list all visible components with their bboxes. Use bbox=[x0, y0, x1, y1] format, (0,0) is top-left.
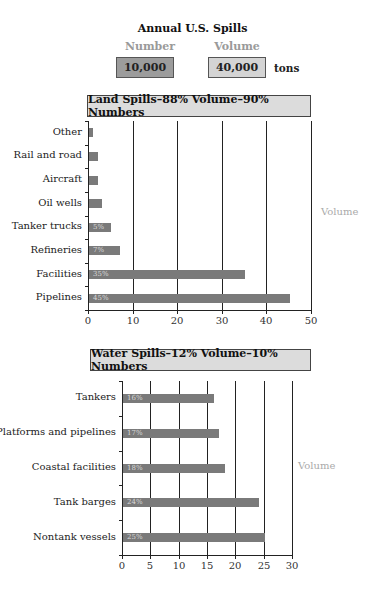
x-tick-label: 25 bbox=[254, 560, 274, 571]
x-tick-label: 30 bbox=[282, 560, 302, 571]
category-label: Nontank vessels bbox=[33, 531, 116, 542]
y-tick bbox=[119, 520, 122, 521]
y-tick bbox=[119, 381, 122, 382]
gridline bbox=[292, 381, 293, 555]
category-label: Coastal facilities bbox=[32, 461, 116, 472]
bar: 17% bbox=[123, 429, 219, 438]
x-tick-label: 10 bbox=[169, 560, 189, 571]
x-tick-label: 20 bbox=[225, 560, 245, 571]
category-label: Platforms and pipelines bbox=[0, 426, 116, 437]
y-tick bbox=[119, 485, 122, 486]
category-label: Tankers bbox=[76, 391, 116, 402]
bar-value-label: 18% bbox=[127, 464, 143, 472]
y-tick bbox=[119, 555, 122, 556]
x-tick-label: 5 bbox=[140, 560, 160, 571]
water-side-label: Volume bbox=[298, 460, 335, 471]
x-tick-label: 0 bbox=[112, 560, 132, 571]
bar-value-label: 17% bbox=[127, 429, 143, 437]
water-spills-chart: 05101520253016%Tankers17%Platforms and p… bbox=[0, 0, 377, 594]
y-tick bbox=[119, 451, 122, 452]
bar: 18% bbox=[123, 464, 225, 473]
bar-value-label: 24% bbox=[127, 498, 143, 506]
bar: 25% bbox=[123, 533, 265, 542]
gridline bbox=[264, 381, 265, 555]
bar-value-label: 25% bbox=[127, 533, 143, 541]
x-tick-label: 15 bbox=[197, 560, 217, 571]
x-axis bbox=[122, 555, 293, 556]
category-label: Tank barges bbox=[54, 496, 116, 507]
bar: 24% bbox=[123, 498, 259, 507]
y-tick bbox=[119, 416, 122, 417]
gridline bbox=[235, 381, 236, 555]
bar-value-label: 16% bbox=[127, 394, 143, 402]
bar: 16% bbox=[123, 394, 214, 403]
